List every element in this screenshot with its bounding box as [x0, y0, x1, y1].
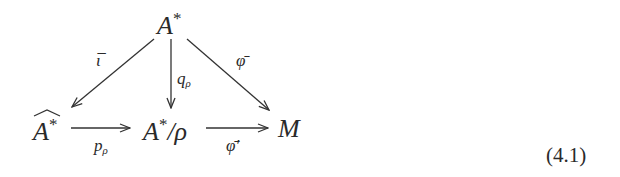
node-left-sup: *: [49, 115, 58, 134]
label-q-rho: qρ: [177, 70, 191, 89]
node-middle-base: A: [143, 117, 159, 146]
arrow-top-to-left: [72, 39, 154, 107]
label-phi-bar-prime: φ̄′: [226, 137, 239, 154]
label-p-sub: ρ: [103, 144, 108, 156]
node-middle: A*/ρ: [143, 116, 187, 145]
equation-number: (4.1): [546, 145, 586, 166]
node-top: A*: [157, 10, 181, 39]
label-phi-bar-text: φ̄: [236, 51, 245, 70]
label-q-base: q: [177, 69, 186, 88]
label-phi-bar: φ̄: [236, 52, 245, 69]
node-left-base: A: [33, 117, 49, 146]
label-p-rho: pρ: [94, 137, 108, 156]
label-iota-bar: ι̅: [96, 52, 101, 69]
label-q-sub: ρ: [186, 77, 191, 89]
node-left: A*: [33, 116, 57, 145]
node-right: M: [278, 116, 300, 142]
label-p-base: p: [94, 136, 103, 155]
arrow-top-to-right: [187, 39, 269, 110]
node-right-base: M: [278, 114, 300, 143]
node-top-sup: *: [173, 9, 182, 28]
arrows-layer: [0, 0, 620, 177]
label-iota-bar-text: ι̅: [96, 51, 101, 70]
node-middle-suffix: /ρ: [167, 117, 187, 146]
node-top-base: A: [157, 11, 173, 40]
hat-accent: [33, 109, 61, 117]
label-phi-bar-prime-text: φ̄′: [226, 136, 239, 155]
